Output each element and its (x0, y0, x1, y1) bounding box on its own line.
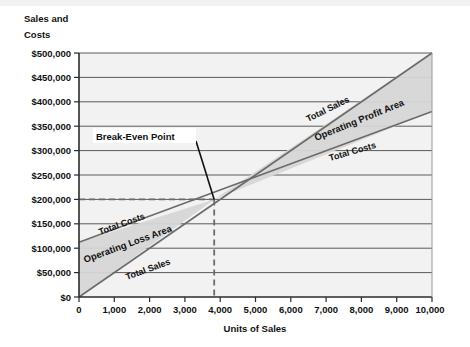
x-tick-label: 6,000 (279, 304, 303, 315)
x-tick-label: 8,000 (350, 304, 374, 315)
y-tick-label: $50,000 (37, 267, 71, 278)
x-axis-title: Units of Sales (224, 323, 287, 334)
y-axis-title-line2: Costs (24, 29, 50, 40)
y-tick-label: $500,000 (31, 48, 71, 59)
y-tick-label: $400,000 (31, 96, 71, 107)
x-tick-label: 0 (76, 304, 81, 315)
x-tick-label: 7,000 (314, 304, 338, 315)
chart-svg: Sales and Costs $500,000 $450,000 $400,0… (0, 0, 470, 347)
y-tick-label: $250,000 (31, 170, 71, 181)
y-tick-label: $300,000 (31, 145, 71, 156)
x-tick-label: 5,000 (244, 304, 268, 315)
x-tick-label: 10,000 (415, 304, 444, 315)
x-tick-label: 9,000 (385, 304, 409, 315)
y-tick-label: $0 (60, 292, 71, 303)
x-tick-label: 3,000 (173, 304, 197, 315)
break-even-chart: Sales and Costs $500,000 $450,000 $400,0… (0, 0, 470, 347)
y-tick-label: $200,000 (31, 194, 71, 205)
x-tick-label: 1,000 (102, 304, 126, 315)
y-tick-label: $100,000 (31, 243, 71, 254)
x-tick-label: 4,000 (208, 304, 232, 315)
y-axis-title-line1: Sales and (24, 13, 69, 24)
break-even-point-label: Break-Even Point (96, 131, 175, 142)
y-tick-label: $450,000 (31, 72, 71, 83)
y-tick-label: $350,000 (31, 121, 71, 132)
x-tick-label: 2,000 (138, 304, 162, 315)
y-tick-label: $150,000 (31, 218, 71, 229)
